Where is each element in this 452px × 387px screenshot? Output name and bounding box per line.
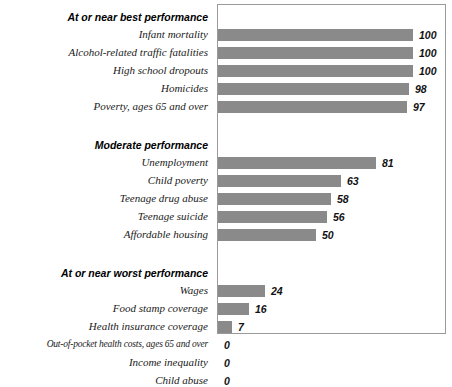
- bar-value-label: 7: [238, 321, 244, 333]
- group-header: At or near best performance: [0, 11, 208, 23]
- bar: [218, 193, 331, 205]
- bar-value-label: 16: [255, 303, 267, 315]
- category-label: Child poverty: [0, 174, 208, 186]
- group-header: Moderate performance: [0, 139, 208, 151]
- category-label: Out-of-pocket health costs, ages 65 and …: [0, 338, 208, 350]
- category-label: Poverty, ages 65 and over: [0, 100, 208, 112]
- bar: [218, 211, 327, 223]
- bar: [218, 175, 341, 187]
- bar: [218, 285, 265, 297]
- bar-value-label: 24: [271, 285, 283, 297]
- bar-value-label: 63: [347, 175, 359, 187]
- group-header: At or near worst performance: [0, 267, 208, 279]
- bar: [218, 321, 232, 333]
- category-label: Child abuse: [0, 374, 208, 386]
- bar-value-label: 56: [333, 211, 345, 223]
- bar-value-label: 100: [419, 47, 437, 59]
- bar-value-label: 50: [322, 229, 334, 241]
- bar-value-label: 0: [224, 357, 230, 369]
- bar: [218, 47, 413, 59]
- bar: [218, 229, 316, 241]
- bar: [218, 83, 409, 95]
- category-label: Food stamp coverage: [0, 302, 208, 314]
- category-label: Alcohol-related traffic fatalities: [0, 46, 208, 58]
- bar-value-label: 0: [224, 375, 230, 387]
- category-label: Affordable housing: [0, 228, 208, 240]
- category-label: Health insurance coverage: [0, 320, 208, 332]
- bar: [218, 101, 407, 113]
- category-label: High school dropouts: [0, 64, 208, 76]
- category-label: Unemployment: [0, 156, 208, 168]
- bar-value-label: 100: [419, 65, 437, 77]
- bar-value-label: 97: [413, 101, 425, 113]
- plot-area: 1001001009897816358565024167000: [217, 4, 446, 334]
- category-label: Teenage suicide: [0, 210, 208, 222]
- category-label: Homicides: [0, 82, 208, 94]
- bar-value-label: 100: [419, 29, 437, 41]
- bar: [218, 65, 413, 77]
- bar: [218, 29, 413, 41]
- category-label: Infant mortality: [0, 28, 208, 40]
- bar-value-label: 81: [382, 157, 394, 169]
- bar-value-label: 98: [415, 83, 427, 95]
- category-label: Teenage drug abuse: [0, 192, 208, 204]
- bar: [218, 303, 249, 315]
- bar-value-label: 58: [337, 193, 349, 205]
- category-label-column: At or near best performanceInfant mortal…: [0, 0, 212, 344]
- bar-value-label: 0: [224, 339, 230, 351]
- category-label: Wages: [0, 284, 208, 296]
- category-label: Income inequality: [0, 356, 208, 368]
- bar: [218, 157, 376, 169]
